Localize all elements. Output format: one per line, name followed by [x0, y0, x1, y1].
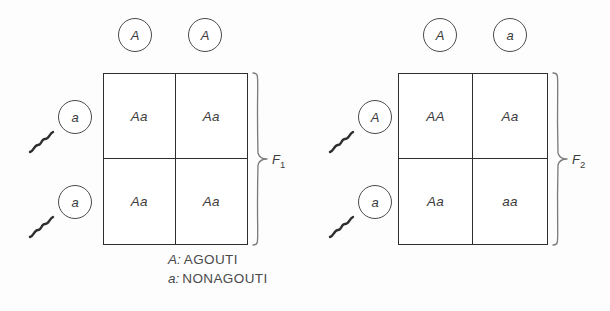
- brace-f1: [250, 71, 270, 247]
- brace-label-text: F: [272, 152, 280, 167]
- legend-value-agouti: AGOUTI: [184, 252, 238, 267]
- grid-cell-row2-col1: Aa: [399, 159, 473, 244]
- panel-f2-cross: A a A a AA Aa Aa aa F2: [305, 0, 610, 311]
- brace-f2: [550, 71, 570, 247]
- brace-label-sub: 1: [280, 159, 285, 170]
- grid-cell-row2-col2: aa: [473, 159, 547, 244]
- grid-cell-row1-col1: Aa: [104, 74, 176, 159]
- grid-cell-row1-col1: AA: [399, 74, 473, 159]
- side-gamete-1: A: [328, 100, 398, 160]
- top-gamete-1: A: [423, 18, 457, 52]
- grid-cell-row2-col2: Aa: [176, 159, 248, 244]
- legend-value-nonagouti: NONAGOUTI: [182, 271, 267, 286]
- legend-row-nonagouti: a:NONAGOUTI: [168, 269, 268, 288]
- panel-f1-cross: A A a a Aa Aa Aa Aa F1: [0, 0, 305, 311]
- brace-label-sub: 2: [580, 159, 585, 170]
- grid-cell-row2-col1: Aa: [104, 159, 176, 244]
- side-gamete-label-2: a: [358, 185, 392, 219]
- side-gamete-2: a: [328, 185, 398, 245]
- top-gamete-2: a: [493, 18, 527, 52]
- side-gamete-label-2: a: [58, 185, 92, 219]
- grid-cell-row1-col2: Aa: [473, 74, 547, 159]
- side-gamete-1: a: [28, 100, 98, 160]
- grid-cell-row1-col2: Aa: [176, 74, 248, 159]
- brace-label-f1: F1: [272, 152, 285, 170]
- legend-key-A: A:: [168, 252, 181, 267]
- punnett-grid-f1: Aa Aa Aa Aa: [103, 73, 248, 245]
- side-gamete-label-1: a: [58, 100, 92, 134]
- side-gamete-2: a: [28, 185, 98, 245]
- top-gamete-1: A: [118, 18, 152, 52]
- side-gamete-label-1: A: [358, 100, 392, 134]
- top-gamete-2: A: [188, 18, 222, 52]
- punnett-grid-f2: AA Aa Aa aa: [398, 73, 548, 245]
- legend-row-agouti: A:AGOUTI: [168, 250, 268, 269]
- brace-label-f2: F2: [572, 152, 585, 170]
- legend: A:AGOUTI a:NONAGOUTI: [168, 250, 268, 288]
- punnett-square-figure: A A a a Aa Aa Aa Aa F1: [0, 0, 610, 311]
- legend-key-a: a:: [168, 271, 179, 286]
- brace-label-text: F: [572, 152, 580, 167]
